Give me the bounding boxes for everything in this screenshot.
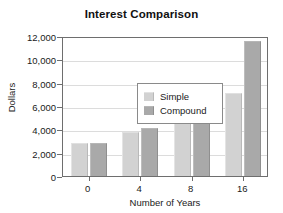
bar-simple-0 [71,143,88,176]
chart-title: Interest Comparison [0,8,283,20]
plot-area: Simple Compound [62,37,268,177]
interest-comparison-chart: Interest Comparison Dollars 02,0004,0006… [0,0,283,213]
x-axis-tick-mark [89,176,90,181]
y-axis-tick-mark [57,177,62,178]
bar-compound-0 [90,143,107,176]
y-axis-tick-label: 8,000 [8,78,56,89]
legend-label-compound: Compound [160,105,206,116]
legend: Simple Compound [137,83,223,124]
legend-swatch-compound-icon [144,106,154,115]
y-axis-tick-label: 0 [8,172,56,183]
y-axis-tick-label: 10,000 [8,55,56,66]
legend-label-simple: Simple [160,91,189,102]
x-axis-tick-mark [192,176,193,181]
y-axis-tick-label: 6,000 [8,102,56,113]
y-axis-tick-label: 4,000 [8,125,56,136]
bar-group [218,38,270,176]
y-axis-tick-label: 12,000 [8,32,56,43]
legend-swatch-simple-icon [144,92,154,101]
bar-group [63,38,115,176]
x-axis-tick-label: 16 [222,183,262,194]
bar-simple-16 [225,93,242,176]
bar-compound-16 [244,41,261,176]
legend-item-compound: Compound [144,103,216,117]
x-axis-tick-mark [140,176,141,181]
bar-simple-4 [122,132,139,176]
x-axis-tick-label: 0 [68,183,108,194]
x-axis-tick-label: 8 [171,183,211,194]
y-axis-title: Dollars [6,68,17,128]
x-axis-tick-label: 4 [119,183,159,194]
bar-compound-4 [141,128,158,176]
y-axis-tick-label: 2,000 [8,148,56,159]
bar-simple-8 [174,120,191,176]
legend-item-simple: Simple [144,89,216,103]
x-axis-title: Number of Years [62,197,268,208]
x-axis-tick-mark [243,176,244,181]
